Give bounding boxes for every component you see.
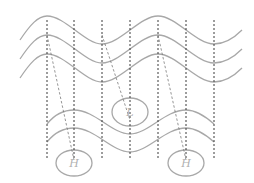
diagram-canvas: LHH: [0, 0, 254, 183]
top-wave-2: [20, 35, 242, 63]
slant-projection-line: [47, 35, 74, 160]
slant-line-group: [47, 35, 186, 160]
top-wave-3: [20, 54, 242, 82]
top-wave-1: [20, 16, 242, 44]
left-ellipse-label: H: [68, 157, 79, 170]
slant-projection-line: [158, 35, 186, 160]
vertical-guide-group: [47, 20, 214, 160]
right-ellipse-label: H: [180, 157, 191, 170]
top-wave-group: [20, 16, 242, 82]
wave-diagram: LHH: [0, 0, 254, 183]
center-ellipse-label: L: [125, 106, 133, 119]
